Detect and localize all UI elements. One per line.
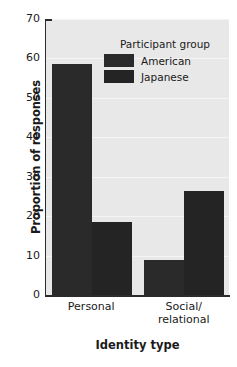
legend-label: Japanese (141, 71, 189, 83)
x-axis-title: Identity type (45, 338, 230, 352)
bar (144, 260, 184, 295)
x-tick-label: Social/relational (138, 301, 231, 326)
legend-label: American (141, 55, 191, 67)
x-tick-label: Personal (45, 301, 138, 326)
x-tick-label-line: Social/ (138, 301, 231, 314)
x-axis-line (45, 295, 230, 297)
y-tick-label: 60 (14, 52, 40, 63)
y-tick-label: 0 (14, 289, 40, 300)
y-tick-label: 40 (14, 131, 40, 142)
bar-chart-figure: Proportion of responses 010203040506070 … (0, 0, 237, 367)
x-tick-label-line: relational (138, 314, 231, 327)
bar (52, 64, 92, 295)
legend-entries: AmericanJapanese (104, 54, 224, 83)
bar (92, 222, 132, 295)
y-tick-label: 50 (14, 92, 40, 103)
y-tick-label: 20 (14, 210, 40, 221)
y-axis-tick-labels: 010203040506070 (14, 19, 40, 295)
x-tick-label-line: Personal (45, 301, 138, 314)
legend-entry: American (104, 54, 224, 67)
y-tick-label: 30 (14, 171, 40, 182)
legend-title: Participant group (106, 38, 224, 50)
x-axis-tick-labels: PersonalSocial/relational (45, 301, 230, 326)
y-axis-top-tick (45, 19, 52, 21)
legend-swatch (104, 70, 134, 83)
legend: Participant group AmericanJapanese (104, 38, 224, 86)
y-tick-label: 10 (14, 250, 40, 261)
y-tick-label: 70 (14, 13, 40, 24)
legend-entry: Japanese (104, 70, 224, 83)
gridline (46, 19, 229, 20)
bar (184, 191, 224, 295)
legend-swatch (104, 54, 134, 67)
